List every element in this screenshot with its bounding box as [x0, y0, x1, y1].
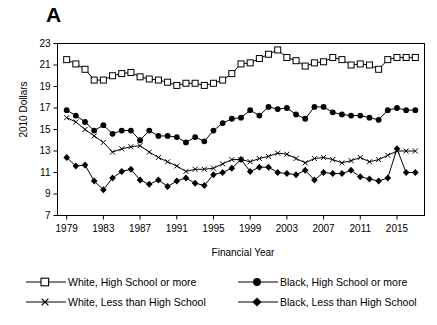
data-point [220, 161, 225, 166]
data-point [174, 134, 180, 140]
data-point [146, 128, 152, 134]
x-tick-label: 1987 [129, 223, 152, 234]
data-point [128, 128, 134, 134]
chart-legend: White, High School or more Black, High S… [24, 272, 424, 316]
data-point [183, 140, 189, 146]
data-point [64, 115, 69, 120]
series-1 [64, 104, 418, 145]
data-point [376, 66, 382, 72]
data-point [165, 159, 170, 164]
data-point [91, 128, 97, 134]
data-point [348, 62, 354, 68]
data-point [412, 54, 418, 60]
x-tick-label: 2003 [276, 223, 299, 234]
cross-x-icon [24, 295, 68, 309]
data-point [73, 113, 79, 119]
data-point [174, 82, 180, 88]
data-point [385, 174, 392, 181]
data-point [266, 51, 272, 57]
data-point [293, 171, 300, 178]
filled-circle-icon [236, 275, 280, 289]
data-point [385, 153, 390, 158]
data-point [385, 107, 391, 113]
data-point [229, 116, 235, 122]
open-square-icon [24, 275, 68, 289]
data-point [82, 119, 88, 125]
x-tick-label: 1999 [239, 223, 262, 234]
data-point [100, 122, 106, 128]
data-point [339, 112, 345, 118]
filled-diamond-icon [236, 295, 280, 309]
data-point [110, 131, 116, 137]
data-point [155, 177, 162, 184]
data-point [366, 62, 372, 68]
data-point [174, 164, 179, 169]
data-point [293, 112, 299, 118]
y-tick-label: 21 [39, 59, 51, 70]
series-2 [64, 115, 418, 174]
y-tick-label: 11 [40, 167, 51, 178]
data-point [348, 113, 354, 119]
data-point [302, 63, 308, 69]
data-point [376, 117, 382, 123]
data-point [156, 133, 162, 139]
data-point [330, 54, 336, 60]
data-point [275, 47, 281, 53]
data-point [92, 133, 97, 138]
legend-label: Black, High School or more [280, 275, 407, 289]
y-tick-label: 13 [39, 145, 51, 156]
data-point [284, 170, 291, 177]
data-point [118, 168, 125, 175]
data-point [275, 106, 281, 112]
y-tick-label: 9 [45, 188, 51, 199]
legend-entry-white-hs: White, High School or more [24, 275, 236, 289]
data-point [256, 164, 263, 171]
data-point [357, 173, 364, 180]
legend-row: White, High School or more Black, High S… [24, 272, 424, 292]
data-point [385, 57, 391, 63]
data-point [403, 107, 409, 113]
data-point [192, 134, 198, 140]
data-point [220, 77, 226, 83]
data-point [403, 54, 409, 60]
data-point [110, 150, 115, 155]
legend-label: Black, Less than High School [280, 295, 417, 309]
chart-plot-area: 7911131517192123197919831987199119951999… [0, 0, 437, 270]
data-point [357, 113, 363, 119]
data-point [73, 119, 78, 124]
data-point [274, 169, 281, 176]
data-point [339, 170, 346, 177]
data-point [164, 183, 171, 190]
x-tick-label: 1983 [92, 223, 115, 234]
data-point [147, 150, 152, 155]
data-point [137, 74, 143, 80]
x-tick-label: 1991 [166, 223, 189, 234]
data-point [329, 170, 336, 177]
data-point [238, 115, 244, 121]
data-point [366, 175, 373, 182]
data-point [238, 61, 244, 67]
x-tick-label: 1995 [202, 223, 225, 234]
x-tick-label: 1979 [56, 223, 79, 234]
data-point [266, 104, 272, 110]
data-point [137, 137, 143, 143]
data-point [321, 104, 327, 110]
data-point [330, 109, 336, 115]
data-point [128, 70, 134, 76]
legend-row: White, Less than High School Black, Less… [24, 292, 424, 312]
data-point [201, 82, 207, 88]
data-point [101, 140, 106, 145]
data-point [312, 104, 318, 110]
data-point [321, 59, 327, 65]
data-point [294, 156, 299, 161]
y-tick-label: 23 [39, 38, 51, 49]
data-point [403, 169, 410, 176]
data-point [293, 58, 299, 64]
data-point [192, 180, 199, 187]
data-point [375, 178, 382, 185]
data-point [83, 127, 88, 132]
data-point [302, 116, 308, 122]
x-tick-label: 2007 [312, 223, 335, 234]
data-point [183, 174, 190, 181]
data-point [64, 57, 70, 63]
